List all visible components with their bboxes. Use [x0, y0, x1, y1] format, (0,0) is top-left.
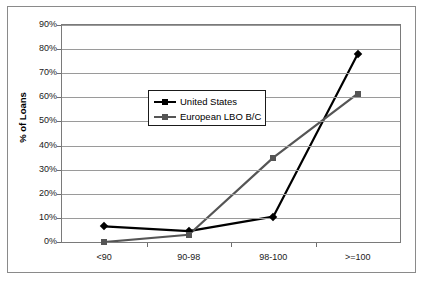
gridline: [62, 49, 400, 50]
gridline: [62, 73, 400, 74]
x-axis-tick-label: 90-98: [149, 252, 229, 262]
gridline: [62, 218, 400, 219]
x-axis-tick-label: <90: [64, 252, 144, 262]
gridline: [62, 194, 400, 195]
y-axis-tick-label: 80%: [17, 44, 57, 53]
x-axis-tick-label: >=100: [318, 252, 398, 262]
data-point-marker: [101, 239, 107, 245]
legend-swatch-united-states: [153, 96, 177, 108]
x-axis-tick-mark: [316, 243, 317, 247]
x-axis-tick-mark: [231, 243, 232, 247]
y-axis-tick-label: 90%: [17, 20, 57, 29]
gridline: [62, 25, 400, 26]
data-point-marker: [355, 91, 361, 97]
data-point-marker: [186, 232, 192, 238]
legend-label-european-lbo: European LBO B/C: [180, 111, 261, 122]
legend-label-united-states: United States: [180, 96, 237, 107]
data-point-marker: [270, 155, 276, 161]
gridline: [62, 146, 400, 147]
y-axis-tick-label: 0%: [17, 237, 57, 246]
legend-swatch-european-lbo: [153, 111, 177, 123]
series-lines: [62, 25, 400, 242]
x-axis-tick-label: 98-100: [233, 252, 313, 262]
gridline: [62, 170, 400, 171]
y-axis-tick-label: 20%: [17, 189, 57, 198]
y-axis-title: % of Loans: [17, 73, 28, 163]
chart-figure: 0%10%20%30%40%50%60%70%80%90% % of Loans…: [0, 0, 424, 281]
x-axis-tick-mark: [147, 243, 148, 247]
y-axis-tick-label: 10%: [17, 213, 57, 222]
legend-item-european-lbo: European LBO B/C: [153, 109, 261, 124]
legend: United States European LBO B/C: [148, 90, 266, 126]
legend-item-united-states: United States: [153, 94, 261, 109]
plot-area: [62, 25, 400, 242]
series-line-united-states: [104, 54, 358, 231]
plot-frame: [61, 24, 401, 243]
y-axis-tick-label: 30%: [17, 165, 57, 174]
